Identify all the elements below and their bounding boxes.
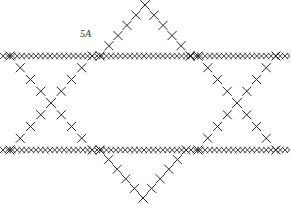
cross-stitch-mark: [194, 52, 203, 61]
cross-stitch-mark: [147, 184, 156, 193]
star-pattern: [0, 0, 290, 210]
cross-stitch-mark: [26, 122, 35, 131]
cross-stitch-mark: [57, 110, 66, 119]
cross-stitch-mark: [139, 194, 148, 203]
cross-stitch-mark: [159, 21, 168, 30]
cross-stitch-mark: [262, 63, 271, 72]
cross-stitch-mark: [57, 87, 66, 96]
cross-stitch-mark: [36, 87, 45, 96]
cross-stitch-mark: [272, 52, 281, 61]
cross-stitch-mark: [203, 63, 212, 72]
cross-stitch-mark: [132, 11, 141, 20]
cross-stitch-mark: [182, 146, 191, 155]
cross-stitch-mark: [36, 110, 45, 119]
cross-stitch-mark: [6, 146, 15, 155]
cross-stitch-mark: [113, 165, 122, 174]
cross-stitch-mark: [177, 41, 186, 50]
cross-stitch-mark: [233, 99, 242, 108]
cross-stitch-mark: [203, 134, 212, 143]
cross-stitch-mark: [47, 99, 56, 108]
cross-stitch-mark: [16, 134, 25, 143]
cross-stitch-mark: [156, 174, 165, 183]
cross-stitch-mark: [150, 11, 159, 20]
cross-stitch-mark: [77, 63, 86, 72]
cross-stitch-mark: [104, 155, 113, 164]
cross-stitch-mark: [213, 75, 222, 84]
cross-stitch-mark: [242, 110, 251, 119]
cross-stitch-mark: [141, 1, 150, 10]
cross-stitch-mark: [252, 122, 261, 131]
cross-stitch-mark: [6, 52, 15, 61]
cross-stitch-mark: [88, 146, 97, 155]
cross-stitch-mark: [105, 41, 114, 50]
cross-stitch-mark: [272, 146, 281, 155]
cross-stitch-mark: [168, 31, 177, 40]
cross-stitch-mark: [287, 147, 291, 153]
cross-stitch-mark: [130, 184, 139, 193]
cross-stitch-mark: [262, 134, 271, 143]
cross-stitch-mark: [213, 122, 222, 131]
cross-stitch-mark: [16, 63, 25, 72]
cross-stitch-mark: [88, 52, 97, 61]
cross-stitch-mark: [287, 53, 291, 59]
cross-stitch-mark: [194, 146, 203, 155]
cross-stitch-mark: [223, 110, 232, 119]
cross-stitch-mark: [123, 21, 132, 30]
figure-label: 5A: [80, 28, 91, 39]
cross-stitch-mark: [67, 122, 76, 131]
cross-stitch-mark: [252, 75, 261, 84]
cross-stitch-mark: [242, 87, 251, 96]
cross-stitch-mark: [114, 31, 123, 40]
cross-stitch-mark: [26, 75, 35, 84]
cross-stitch-mark: [67, 75, 76, 84]
cross-stitch-mark: [164, 165, 173, 174]
cross-stitch-mark: [173, 155, 182, 164]
cross-stitch-mark: [223, 87, 232, 96]
cross-stitch-mark: [121, 174, 130, 183]
cross-stitch-mark: [77, 134, 86, 143]
